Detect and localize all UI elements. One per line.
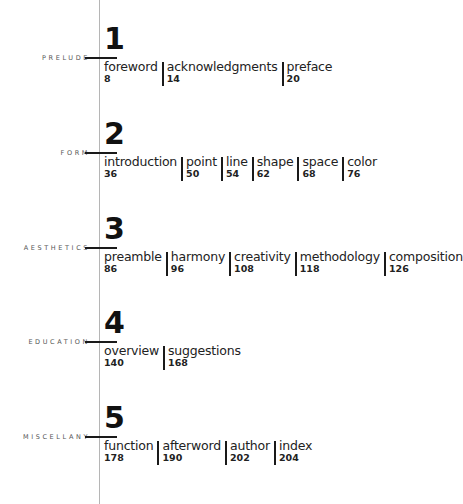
toc-entry[interactable]: overview140 xyxy=(104,344,159,368)
toc-entry[interactable]: foreword8 xyxy=(104,60,158,84)
entry-title: point xyxy=(186,155,217,168)
entry-page: 168 xyxy=(168,357,241,368)
entry-page: 36 xyxy=(104,168,177,179)
section-form: 2 FORM introduction36 point50 line54 sha… xyxy=(0,115,447,195)
entry-page: 8 xyxy=(104,73,158,84)
entry-title: composition xyxy=(389,250,463,263)
entry-page: 178 xyxy=(104,452,153,463)
section-label: PRELUDE xyxy=(42,54,90,62)
entry-separator xyxy=(384,252,386,276)
entry-title: preamble xyxy=(104,250,162,263)
toc-entry[interactable]: space68 xyxy=(302,155,338,179)
entry-separator xyxy=(181,157,183,181)
entry-page: 86 xyxy=(104,263,162,274)
entry-separator xyxy=(157,441,159,465)
toc-entry[interactable]: color76 xyxy=(347,155,377,179)
entry-separator xyxy=(225,441,227,465)
toc-entry[interactable]: afterword190 xyxy=(162,439,221,463)
toc-entry[interactable]: author202 xyxy=(230,439,270,463)
section-miscellany: 5 MISCELLANY function178 afterword190 au… xyxy=(0,399,447,479)
entry-title: index xyxy=(279,439,312,452)
entry-list: foreword8 acknowledgments14 preface20 xyxy=(104,60,332,86)
entry-separator xyxy=(252,157,254,181)
section-number: 3 xyxy=(104,214,125,244)
entry-list: overview140 suggestions168 xyxy=(104,344,241,370)
toc-entry[interactable]: introduction36 xyxy=(104,155,177,179)
toc-entry[interactable]: index204 xyxy=(279,439,312,463)
toc-entry[interactable]: acknowledgments14 xyxy=(167,60,278,84)
entry-page: 62 xyxy=(257,168,294,179)
entry-separator xyxy=(163,346,165,370)
entry-title: space xyxy=(302,155,338,168)
entry-title: introduction xyxy=(104,155,177,168)
entry-title: preface xyxy=(287,60,333,73)
entry-page: 118 xyxy=(300,263,380,274)
toc-entry[interactable]: preface20 xyxy=(287,60,333,84)
entry-list: preamble86 harmony96 creativity108 metho… xyxy=(104,250,463,276)
toc-entry[interactable]: harmony96 xyxy=(171,250,225,274)
entry-title: color xyxy=(347,155,377,168)
entry-page: 20 xyxy=(287,73,333,84)
entry-list: function178 afterword190 author202 index… xyxy=(104,439,312,465)
entry-page: 204 xyxy=(279,452,312,463)
entry-page: 54 xyxy=(226,168,248,179)
entry-separator xyxy=(342,157,344,181)
section-number: 2 xyxy=(104,119,125,149)
entry-separator xyxy=(166,252,168,276)
entry-separator xyxy=(295,252,297,276)
entry-title: line xyxy=(226,155,248,168)
entry-title: afterword xyxy=(162,439,221,452)
entry-separator xyxy=(282,62,284,86)
entry-separator xyxy=(162,62,164,86)
entry-title: creativity xyxy=(234,250,291,263)
section-number: 4 xyxy=(104,308,125,338)
toc-entry[interactable]: line54 xyxy=(226,155,248,179)
entry-page: 68 xyxy=(302,168,338,179)
section-label: EDUCATION xyxy=(28,338,90,346)
section-number: 5 xyxy=(104,403,125,433)
entry-page: 140 xyxy=(104,357,159,368)
section-aesthetics: 3 AESTHETICS preamble86 harmony96 creati… xyxy=(0,210,447,290)
entry-separator xyxy=(297,157,299,181)
toc-entry[interactable]: composition126 xyxy=(389,250,463,274)
entry-separator xyxy=(274,441,276,465)
section-label: MISCELLANY xyxy=(23,433,90,441)
entry-title: function xyxy=(104,439,153,452)
section-education: 4 EDUCATION overview140 suggestions168 xyxy=(0,304,447,384)
entry-title: author xyxy=(230,439,270,452)
section-label: AESTHETICS xyxy=(24,244,90,252)
entry-title: harmony xyxy=(171,250,225,263)
entry-page: 76 xyxy=(347,168,377,179)
section-prelude: 1 PRELUDE foreword8 acknowledgments14 pr… xyxy=(0,20,447,100)
toc-entry[interactable]: point50 xyxy=(186,155,217,179)
entry-page: 50 xyxy=(186,168,217,179)
toc-entry[interactable]: suggestions168 xyxy=(168,344,241,368)
toc-entry[interactable]: methodology118 xyxy=(300,250,380,274)
entry-separator xyxy=(221,157,223,181)
entry-page: 96 xyxy=(171,263,225,274)
entry-title: overview xyxy=(104,344,159,357)
entry-title: methodology xyxy=(300,250,380,263)
toc-entry[interactable]: creativity108 xyxy=(234,250,291,274)
entry-list: introduction36 point50 line54 shape62 sp… xyxy=(104,155,377,181)
entry-page: 14 xyxy=(167,73,278,84)
section-number: 1 xyxy=(104,24,125,54)
entry-page: 202 xyxy=(230,452,270,463)
entry-page: 108 xyxy=(234,263,291,274)
toc-entry[interactable]: function178 xyxy=(104,439,153,463)
entry-title: foreword xyxy=(104,60,158,73)
entry-title: shape xyxy=(257,155,294,168)
entry-title: suggestions xyxy=(168,344,241,357)
entry-title: acknowledgments xyxy=(167,60,278,73)
entry-separator xyxy=(229,252,231,276)
entry-page: 126 xyxy=(389,263,463,274)
toc-entry[interactable]: shape62 xyxy=(257,155,294,179)
toc-entry[interactable]: preamble86 xyxy=(104,250,162,274)
entry-page: 190 xyxy=(162,452,221,463)
